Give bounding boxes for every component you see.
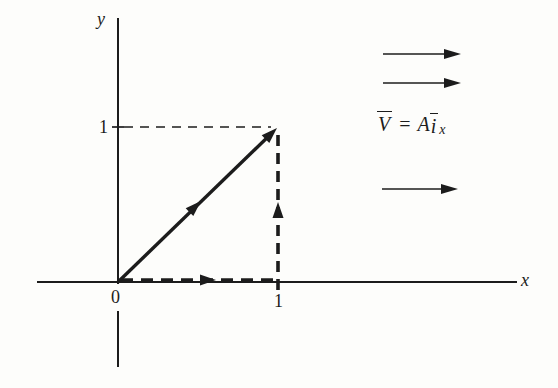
equation-subscript-x: x (439, 123, 445, 137)
arrowhead-right-icon (441, 184, 458, 194)
field-arrow-3 (382, 184, 458, 194)
field-equation: V = A i x (377, 111, 445, 136)
origin-label: 0 (111, 288, 120, 306)
arrowhead-right-icon (444, 78, 461, 88)
x-tick-label-1: 1 (274, 292, 283, 310)
arrowhead-right-icon (200, 275, 216, 286)
figure-canvas: y x 1 0 1 V = A i x (0, 0, 558, 388)
y-axis-label: y (97, 10, 105, 28)
equation-vector-V: V (377, 111, 392, 134)
equation-coefficient-A: A (418, 113, 430, 136)
field-arrow-2 (383, 78, 461, 88)
arrowhead-right-icon (444, 49, 461, 59)
y-tick-label-1: 1 (99, 118, 108, 136)
dashed-path-vertical (273, 132, 284, 290)
dashed-path-horizontal (121, 275, 273, 286)
arrowhead-up-icon (273, 202, 284, 218)
equation-equals-sign: = (399, 113, 410, 136)
x-axis-label: x (521, 271, 529, 289)
diagonal-vector (118, 124, 281, 282)
field-arrow-1 (383, 49, 461, 59)
equation-unit-vector-i: i (430, 113, 439, 136)
diagram-svg (0, 0, 558, 388)
